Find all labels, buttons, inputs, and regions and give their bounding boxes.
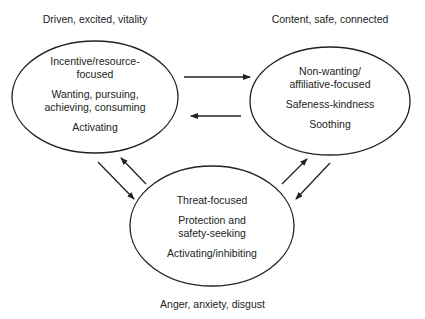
drive-focus-line-1: Incentive/resource- xyxy=(20,55,170,68)
soothe-quality-line: Safeness-kindness xyxy=(255,98,405,111)
drive-effect-line: Activating xyxy=(20,121,170,134)
drive-behaviour-line-2: achieving, consuming xyxy=(20,101,170,114)
threat-behaviour-line-2: safety-seeking xyxy=(137,227,287,240)
threat-effect-line: Activating/inhibiting xyxy=(137,247,287,260)
arrow-drive-to-threat xyxy=(98,162,134,199)
threat-caption: Anger, anxiety, disgust xyxy=(130,298,295,310)
soothe-effect-line: Soothing xyxy=(255,118,405,131)
arrow-threat-to-drive xyxy=(121,158,146,184)
drive-behaviour-line-1: Wanting, pursuing, xyxy=(20,88,170,101)
arrow-soothe-to-threat xyxy=(296,163,330,199)
threat-behaviour-line-1: Protection and xyxy=(137,214,287,227)
drive-focus-line-2: focused xyxy=(20,68,170,81)
soothe-node-text: Non-wanting/ affiliative-focused Safenes… xyxy=(255,65,405,131)
arrow-threat-to-soothe xyxy=(282,159,307,184)
drive-node-text: Incentive/resource- focused Wanting, pur… xyxy=(20,55,170,134)
soothe-focus-line-1: Non-wanting/ xyxy=(255,65,405,78)
soothe-caption: Content, safe, connected xyxy=(245,13,415,25)
drive-caption: Driven, excited, vitality xyxy=(0,13,190,25)
threat-focus-line: Threat-focused xyxy=(137,194,287,207)
threat-node-text: Threat-focused Protection and safety-see… xyxy=(137,194,287,260)
diagram-canvas xyxy=(0,0,425,319)
soothe-focus-line-2: affiliative-focused xyxy=(255,78,405,91)
